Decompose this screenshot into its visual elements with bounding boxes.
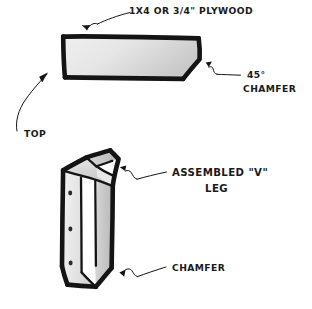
v-leg-corner-vertical-right (95, 181, 96, 266)
board-face (64, 37, 200, 80)
assembled-leg-arrowhead (120, 165, 126, 171)
screw-dot-3 (69, 261, 73, 266)
chamfer-angle-leader-line (217, 74, 241, 75)
assembled-leg-label-line2: LEG (205, 183, 228, 194)
v-leg-outline-bottom (67, 285, 95, 287)
top-label: TOP (24, 128, 46, 139)
chamfer-bottom-arrowhead (119, 270, 125, 277)
assembled-leg-callout: ASSEMBLED "V" LEG (120, 165, 268, 194)
screw-dot-1 (68, 191, 72, 196)
chamfer-bottom-leader-line (138, 267, 167, 277)
chamfer-angle-label: 45° (247, 69, 266, 80)
chamfer-bottom-callout: CHAMFER (119, 262, 225, 277)
v-leg-drawing (62, 150, 119, 287)
assembled-leg-leader-line (137, 172, 167, 179)
board-outline-top (63, 36, 199, 38)
board-outline-left (63, 37, 65, 78)
screw-dot-2 (68, 227, 72, 232)
top-leader-curve (16, 74, 47, 131)
plywood-callout: 1X4 OR 3/4" PLYWOOD (83, 5, 253, 31)
chamfer-angle-callout: 45° CHAMFER (206, 62, 297, 94)
board-outline-bottom (65, 77, 183, 79)
plywood-leader-line (98, 13, 131, 25)
chamfer-label-top: CHAMFER (243, 83, 296, 94)
v-leg-left-face (62, 171, 95, 288)
assembled-leg-label-line1: ASSEMBLED "V" (172, 167, 268, 178)
v-leg-outline-left-long (62, 170, 63, 266)
sketch-root: 1X4 OR 3/4" PLYWOOD 45° CHAMFER TOP (0, 0, 312, 309)
board-drawing (63, 36, 200, 79)
v-leg-corner-vertical (81, 178, 82, 273)
plywood-arrowhead (83, 25, 91, 31)
chamfer-bottom-leader-zigzag (126, 269, 138, 277)
v-leg-outline-right-long (112, 186, 113, 268)
chamfer-label-bottom: CHAMFER (172, 262, 225, 273)
assembled-leg-leader-zigzag (125, 170, 137, 179)
plywood-label: 1X4 OR 3/4" PLYWOOD (129, 5, 253, 16)
top-callout: TOP (16, 73, 47, 139)
chamfer-angle-leader-zigzag (209, 67, 217, 75)
sketch-canvas: 1X4 OR 3/4" PLYWOOD 45° CHAMFER TOP (0, 0, 312, 309)
